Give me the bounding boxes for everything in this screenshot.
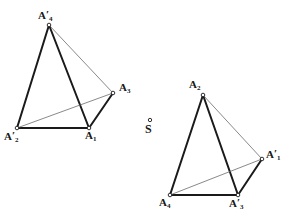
edge-A3p-A1p (238, 159, 262, 195)
label-subscript: 2 (197, 84, 201, 92)
vertex-label-A3: A3 (119, 82, 130, 95)
vertex-marker-A1p (260, 157, 264, 161)
label-base: A (229, 197, 237, 209)
label-base: A (266, 148, 274, 160)
vertex-marker-A4p (47, 23, 51, 27)
label-base: A (189, 78, 197, 90)
edges-layer (17, 25, 262, 195)
vertex-label-A1: A1 (85, 130, 96, 143)
edge-A2-A4 (170, 95, 203, 195)
edge-A2p-A3 (17, 93, 113, 128)
label-base: A (159, 196, 167, 208)
label-base: A (4, 130, 12, 142)
label-subscript: 3 (127, 87, 131, 95)
vertex-markers-layer (15, 23, 264, 197)
edge-A4p-A1 (49, 25, 89, 128)
label-subscript: 4 (49, 15, 53, 23)
vertex-marker-A3 (111, 91, 115, 95)
label-subscript: 4 (167, 202, 171, 210)
label-base: A (38, 9, 46, 21)
point-label-S: S (145, 123, 152, 135)
geometry-figure (0, 0, 290, 216)
label-subscript: 2 (15, 136, 19, 144)
vertex-marker-A2 (201, 93, 205, 97)
edge-A1-A3 (89, 93, 113, 128)
label-subscript: 1 (277, 154, 281, 162)
label-base: A (85, 129, 93, 141)
label-base: A (119, 81, 127, 93)
vertex-label-A3p: A′3 (229, 197, 244, 211)
vertex-label-A4p: A′4 (38, 9, 53, 23)
edge-A4p-A2p (17, 25, 49, 128)
edge-A4-A1p (170, 159, 262, 195)
label-subscript: 3 (240, 203, 244, 211)
edge-A2-A1p (203, 95, 262, 159)
vertex-label-A2: A2 (189, 79, 200, 92)
label-subscript: 1 (93, 135, 97, 143)
vertex-label-A1p: A′1 (266, 148, 281, 162)
vertex-label-A4: A4 (159, 197, 170, 210)
edge-A4p-A3 (49, 25, 113, 93)
vertex-label-A2p: A′2 (4, 130, 19, 144)
